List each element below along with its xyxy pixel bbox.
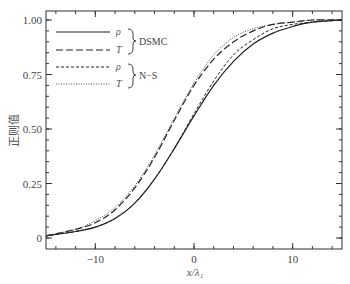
legend-dsmc-t: T [116,44,123,55]
data-curves [46,20,342,236]
brace-dsmc [128,29,136,54]
legend-ns-rho: ρ [115,61,121,72]
legend-ns-t: T [116,78,123,89]
x-axis-label: x/λ₁ [186,266,204,278]
x-tick-label: 0 [191,253,197,265]
x-tick-label: −10 [87,253,105,265]
y-axis-label: 正则值 [8,114,20,147]
tick-labels: −1001000.250.500.751.00 [23,14,299,265]
curve-n-s- [46,20,342,236]
brace-ns [128,64,136,88]
axis-ticks [46,11,342,249]
legend-ns-label: N−S [139,70,157,81]
y-tick-label: 0.50 [23,123,43,135]
legend-dsmc-rho: ρ [115,26,121,37]
curve-dsmc-t [46,20,342,236]
y-tick-label: 0.75 [23,69,43,81]
y-tick-label: 0 [37,232,43,244]
y-tick-label: 1.00 [23,14,43,26]
legend: ρ T DSMC ρ T N−S [56,26,168,89]
curve-dsmc- [46,20,342,236]
x-tick-label: 10 [287,253,299,265]
curve-n-s-t [46,20,342,236]
legend-dsmc-label: DSMC [139,36,168,47]
chart: −1001000.250.500.751.00 ρ T DSMC ρ T N−S… [0,0,350,284]
plot-frame [46,11,342,249]
y-tick-label: 0.25 [23,178,43,190]
